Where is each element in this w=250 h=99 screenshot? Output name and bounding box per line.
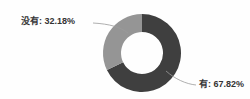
slice-label-meiyou: 没有: 32.18% xyxy=(21,16,75,27)
donut-slice-meiyou[interactable] xyxy=(103,14,142,70)
slice-label-you: 有: 67.82% xyxy=(199,79,244,90)
donut-slices xyxy=(103,14,181,92)
donut-chart: 没有: 32.18% 有: 67.82% xyxy=(0,0,250,99)
